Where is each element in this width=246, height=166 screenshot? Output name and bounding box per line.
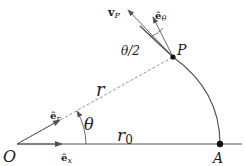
label-half-theta: θ/2 [121,44,140,58]
point-a [217,141,223,147]
label-e-r-sub: r [56,114,61,123]
label-e-x-sub: x [67,156,72,165]
trajectory-curve [173,57,220,144]
polar-motion-diagram: O A P r r0 θ θ/2 êr êx êθ vP [0,0,246,166]
label-v-sub: P [113,11,120,20]
label-e-r: êr [50,110,61,123]
e-r-arrow [17,120,60,144]
label-r0: r0 [117,125,133,147]
point-p [170,54,175,59]
label-e-theta: êθ [155,10,166,23]
label-a: A [211,150,223,166]
label-e-theta-sub: θ [161,14,166,23]
label-o: O [3,147,16,166]
label-p: P [176,42,187,58]
label-r: r [96,79,106,100]
label-v-p: vP [107,6,120,20]
label-r0-sub: 0 [125,133,133,147]
label-e-x: êx [61,152,72,165]
e-theta-arrow [153,17,173,57]
label-theta: θ [84,115,94,134]
